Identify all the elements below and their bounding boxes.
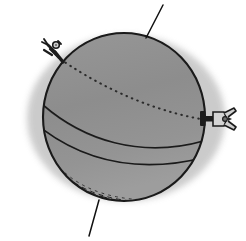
balloon-illustration (0, 0, 246, 241)
fitting-top-left (42, 39, 63, 62)
figure-container (0, 0, 246, 241)
leader-top (146, 5, 163, 38)
leader-bottom (89, 200, 99, 236)
